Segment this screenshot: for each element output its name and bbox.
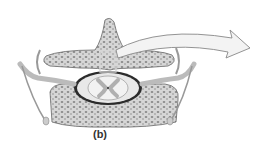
figure-caption: (b) [0, 128, 200, 140]
